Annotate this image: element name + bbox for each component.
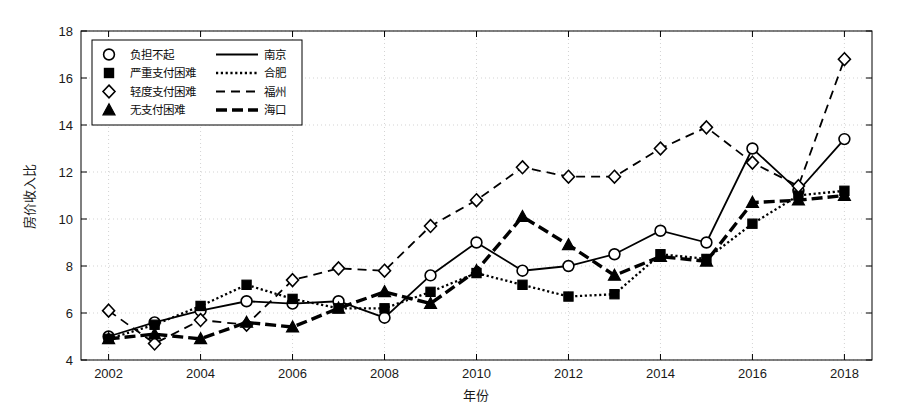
x-axis-tick-labels: 200220042006200820102012201420162018 <box>94 366 859 381</box>
y-axis-title: 房价收入比 <box>22 164 37 229</box>
data-point <box>196 301 205 310</box>
legend-marker-南京 <box>104 49 115 60</box>
x-tick-label: 2014 <box>646 366 675 381</box>
legend-city-福州: 福州 <box>264 85 286 99</box>
data-point <box>609 249 620 260</box>
data-point <box>517 265 528 276</box>
data-point <box>610 290 619 299</box>
data-point <box>426 287 435 296</box>
y-tick-label: 14 <box>59 118 73 133</box>
legend-city-海口: 海口 <box>264 103 286 117</box>
y-tick-label: 10 <box>59 212 73 227</box>
x-axis-title: 年份 <box>463 388 489 403</box>
data-point <box>241 296 252 307</box>
data-point <box>748 219 757 228</box>
y-tick-label: 16 <box>59 71 73 86</box>
data-point <box>655 225 666 236</box>
chart-container: 4681012141618 20022004200620082010201220… <box>0 0 897 409</box>
chart-legend: 负担不起南京严重支付困难合肥轻度支付困难福州无支付困难海口 <box>92 40 302 125</box>
house-price-income-ratio-line-chart: 4681012141618 20022004200620082010201220… <box>0 0 897 409</box>
data-point <box>379 312 390 323</box>
x-tick-label: 2010 <box>462 366 491 381</box>
x-tick-label: 2004 <box>186 366 215 381</box>
y-tick-label: 18 <box>59 24 73 39</box>
data-point <box>471 237 482 248</box>
x-tick-label: 2012 <box>554 366 583 381</box>
x-tick-label: 2008 <box>370 366 399 381</box>
y-tick-label: 12 <box>59 165 73 180</box>
data-point <box>701 237 712 248</box>
legend-city-合肥: 合肥 <box>264 66 287 80</box>
data-point <box>380 304 389 313</box>
legend-marker-合肥 <box>104 68 113 77</box>
data-point <box>425 270 436 281</box>
x-tick-label: 2016 <box>738 366 767 381</box>
data-point <box>288 294 297 303</box>
legend-category-合肥: 严重支付困难 <box>130 66 196 80</box>
data-point <box>747 143 758 154</box>
x-tick-label: 2002 <box>94 366 123 381</box>
x-tick-label: 2006 <box>278 366 307 381</box>
data-point <box>564 292 573 301</box>
x-tick-label: 2018 <box>830 366 859 381</box>
y-tick-label: 8 <box>66 259 73 274</box>
legend-category-南京: 负担不起 <box>130 48 175 62</box>
legend-category-海口: 无支付困难 <box>130 103 185 117</box>
legend-city-南京: 南京 <box>264 48 286 62</box>
legend-category-福州: 轻度支付困难 <box>130 85 196 99</box>
data-point <box>518 280 527 289</box>
data-point <box>242 280 251 289</box>
data-point <box>563 261 574 272</box>
y-tick-label: 4 <box>66 353 73 368</box>
y-tick-label: 6 <box>66 306 73 321</box>
data-point <box>839 134 850 145</box>
